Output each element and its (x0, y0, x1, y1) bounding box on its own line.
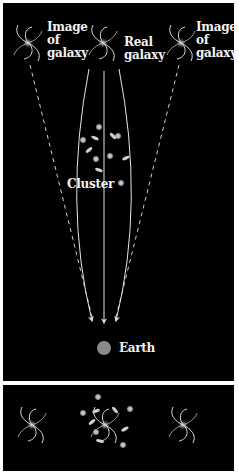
lensed-image-left-icon (18, 407, 46, 443)
label-line: galaxy (47, 47, 88, 60)
earth-view-panel (3, 385, 234, 471)
real-galaxy-icon (89, 25, 117, 61)
galaxy-image-right-icon (167, 25, 195, 61)
light-ray-left (77, 69, 92, 321)
label-image-right: Image of galaxy (196, 21, 237, 60)
side-view-panel: Image of galaxy Real galaxy Image of gal… (3, 3, 234, 381)
galaxy-image-left-icon (14, 25, 42, 61)
label-line: galaxy (196, 47, 237, 60)
earth-view-svg (3, 385, 234, 471)
light-ray-right (116, 69, 131, 321)
lensed-image-right-icon (169, 407, 197, 443)
label-real-galaxy: Real galaxy (124, 36, 165, 62)
label-line: galaxy (124, 49, 165, 62)
label-cluster: Cluster (67, 178, 114, 191)
earth-icon (97, 341, 111, 355)
label-earth: Earth (119, 342, 155, 355)
label-image-left: Image of galaxy (47, 21, 88, 60)
